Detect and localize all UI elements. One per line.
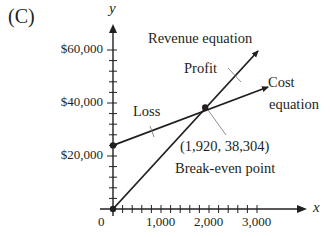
origin-point [110,206,116,212]
x-tick-3000: 3,000 [242,215,271,228]
x-axis [100,205,307,213]
y-axis-arrow-icon [109,24,117,33]
x-tick-0: 0 [98,215,105,228]
x-axis-label: x [313,200,320,215]
y-axis-label: y [109,1,116,16]
y-tick-60000: $60,000 [61,42,103,55]
x-tick-2000: 2,000 [194,215,223,228]
loss-label: Loss [133,104,160,119]
y-axis [107,24,117,216]
x-axis-arrow-icon [297,205,307,213]
revenue-equation-label: Revenue equation [148,31,252,46]
profit-label: Profit [184,61,217,76]
y-tick-40000: $40,000 [61,95,103,108]
break-even-coordinates: (1,920, 38,304) [180,139,269,154]
y-tick-20000: $20,000 [61,148,103,161]
cost-equation-label-line2: equation [269,97,319,112]
x-tick-1000: 1,000 [146,215,175,228]
fixed-cost-point [110,142,116,148]
break-even-label: Break-even point [175,161,275,176]
break-even-point [202,104,208,110]
cost-equation-label-line1: Cost [268,75,295,90]
